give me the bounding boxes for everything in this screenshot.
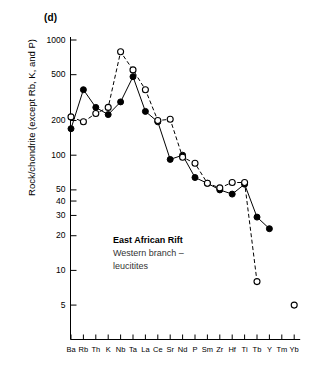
x-tick-label: P [192, 346, 197, 354]
x-tick-label: Yb [290, 346, 299, 354]
x-tick-label: La [141, 346, 149, 354]
x-tick-label: Rb [79, 346, 89, 354]
x-tick-label: Y [267, 346, 272, 354]
annotation-title: East African Rift [113, 234, 184, 247]
x-tick-label: K [106, 346, 111, 354]
x-tick-label: Hf [228, 346, 236, 354]
x-tick-label: Ti [242, 346, 248, 354]
x-tick-label: Th [91, 346, 100, 354]
x-tick-label: Zr [216, 346, 223, 354]
spider-diagram-figure: (d) Rock/chondrite (except Rb, K, and P)… [0, 0, 312, 388]
x-tick-label: Nb [116, 346, 126, 354]
x-tick-label: Ta [129, 346, 137, 354]
x-tick-label: Nd [178, 346, 188, 354]
x-tick-label: Tm [276, 346, 287, 354]
x-tick-label: Ce [153, 346, 163, 354]
x-tick-label: Sr [166, 346, 174, 354]
sample-annotation: East African Rift Western branch – leuci… [113, 234, 184, 273]
annotation-line3: leucitites [113, 260, 184, 273]
x-axis-tick-labels: BaRbThKNbTaLaCeSrNdPSmZrHfTiTbYTmYb [0, 0, 312, 388]
annotation-line2: Western branch – [113, 247, 184, 260]
x-tick-label: Sm [202, 346, 213, 354]
x-tick-label: Tb [253, 346, 262, 354]
x-tick-label: Ba [66, 346, 75, 354]
